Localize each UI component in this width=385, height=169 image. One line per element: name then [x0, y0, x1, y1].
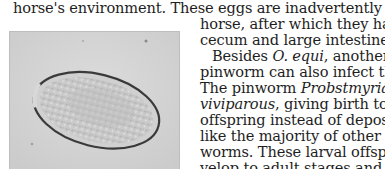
body-text-line: like the majority of other parasitic [200, 128, 385, 144]
egg-micrograph-figure [9, 31, 180, 169]
body-text-line: velop to adult stages and reproduce [200, 160, 385, 169]
body-text-line: cecum and large intestine. [200, 32, 385, 48]
body-text-line: The pinworm Probstmyria equi is [200, 80, 385, 96]
species-name: Probstmyria equi [301, 79, 385, 96]
text-span: Besides [212, 47, 272, 64]
body-text-line: Besides O. equi, another species of [212, 48, 385, 64]
text-span: , another species of [324, 47, 385, 64]
body-text-line: worms. These larval offspring de- [200, 144, 385, 160]
body-text-line: offspring instead of depositing eggs [200, 112, 385, 128]
body-text-line: viviparous, giving birth to living [200, 96, 385, 112]
text-span: The pinworm [200, 79, 301, 96]
body-text-line: pinworm can also infect the horse. [200, 64, 385, 80]
body-text-line: horse, after which they hatch in the [200, 16, 385, 32]
term-viviparous: viviparous [200, 95, 275, 112]
body-text-top-line: horse's environment. These eggs are inad… [13, 0, 385, 16]
text-span: , giving birth to living [275, 95, 385, 112]
pinworm-egg-image [10, 32, 180, 169]
species-name: O. equi [272, 47, 323, 64]
